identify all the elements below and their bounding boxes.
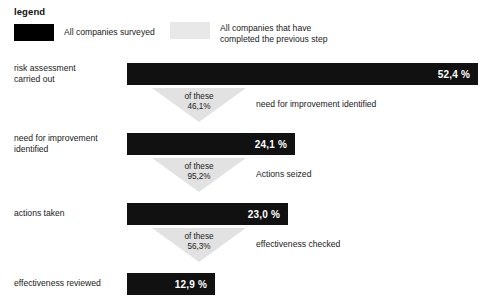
stage-value-actions-taken: 23,0 % — [248, 209, 280, 220]
legend-entry-completed-previous-step: All companies that have completed the pr… — [170, 22, 328, 45]
legend-swatch-dark-icon — [14, 24, 54, 41]
connector-percent-actions-to-effectiveness: 56,3% — [152, 242, 246, 252]
connector-note-need-to-actions: Actions seized — [256, 169, 311, 180]
stage-value-risk-assessment: 52,4 % — [438, 69, 470, 80]
stage-label-effectiveness-reviewed: effectiveness reviewed — [14, 278, 119, 289]
stage-value-need-for-improvement: 24,1 % — [255, 139, 287, 150]
stage-row-need-for-improvement: need for improvement identified 24,1 % — [0, 133, 491, 155]
legend-swatch-light-icon — [170, 22, 210, 39]
stage-bar-risk-assessment: 52,4 % — [127, 63, 478, 85]
stage-bar-need-for-improvement: 24,1 % — [127, 133, 295, 155]
legend-label-all-companies-surveyed: All companies surveyed — [64, 24, 155, 38]
connector-text-actions-to-effectiveness: of these — [152, 232, 246, 242]
stage-bar-effectiveness-reviewed: 12,9 % — [127, 273, 215, 295]
connector-need-to-actions: of these 95,2% Actions seized — [152, 158, 246, 192]
connector-note-actions-to-effectiveness: effectiveness checked — [256, 239, 340, 250]
connector-note-risk-to-need: need for improvement identified — [256, 99, 376, 110]
connector-percent-risk-to-need: 46,1% — [152, 102, 246, 112]
stage-bar-actions-taken: 23,0 % — [127, 203, 288, 225]
stage-label-risk-assessment: risk assessment carried out — [14, 63, 119, 85]
stage-label-need-for-improvement: need for improvement identified — [14, 133, 119, 155]
legend-entry-all-companies-surveyed: All companies surveyed — [14, 24, 155, 41]
connector-actions-to-effectiveness: of these 56,3% effectiveness checked — [152, 228, 246, 262]
connector-text-need-to-actions: of these — [152, 162, 246, 172]
legend-label-completed-previous-step: All companies that have completed the pr… — [220, 22, 328, 45]
stage-row-effectiveness-reviewed: effectiveness reviewed 12,9 % — [0, 273, 491, 295]
connector-text-risk-to-need: of these — [152, 92, 246, 102]
stage-row-risk-assessment: risk assessment carried out 52,4 % — [0, 63, 491, 85]
stage-value-effectiveness-reviewed: 12,9 % — [175, 279, 207, 290]
legend-title: legend — [14, 6, 45, 17]
stage-row-actions-taken: actions taken 23,0 % — [0, 203, 491, 225]
connector-risk-to-need: of these 46,1% need for improvement iden… — [152, 88, 246, 122]
connector-percent-need-to-actions: 95,2% — [152, 172, 246, 182]
funnel-chart: legend All companies surveyed All compan… — [0, 0, 491, 308]
stage-label-actions-taken: actions taken — [14, 208, 119, 219]
